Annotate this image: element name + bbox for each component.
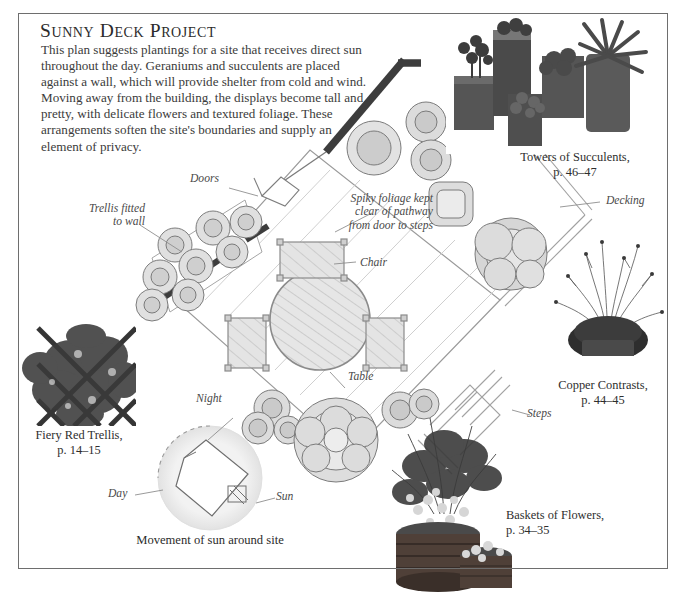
annotation-sun: Sun [276,490,293,503]
annotation-steps: Steps [527,407,551,420]
annotation-night: Night [196,392,222,405]
caption-title: Towers of Succulents, [495,150,655,165]
book-page: Sunny Deck Project This plan suggests pl… [0,0,685,601]
page-title: Sunny Deck Project [40,20,400,42]
annotation-trellis-fitted-to-wall: Trellis fitted to wall [45,202,145,229]
caption-pages: p. 34–35 [506,523,666,538]
sun-diagram-caption: Movement of sun around site [110,533,310,548]
annotation-spiky-foliage: Spiky foliage kept clear of pathway from… [325,192,433,232]
caption-baskets-of-flowers: Baskets of Flowers, p. 34–35 [506,508,666,537]
intro-paragraph: This plan suggests plantings for a site … [41,42,371,155]
caption-title: Copper Contrasts, [528,378,678,393]
annotation-doors: Doors [190,172,219,185]
annotation-chair: Chair [360,256,387,269]
annotation-table: Table [348,370,373,383]
caption-towers-of-succulents: Towers of Succulents, p. 46–47 [495,150,655,179]
caption-title: Fiery Red Trellis, [14,428,144,443]
caption-pages: p. 46–47 [495,165,655,180]
caption-copper-contrasts: Copper Contrasts, p. 44–45 [528,378,678,407]
annotation-decking: Decking [606,194,645,207]
caption-pages: p. 44–45 [528,393,678,408]
annotation-day: Day [108,487,127,500]
caption-pages: p. 14–15 [14,443,144,458]
caption-fiery-red-trellis: Fiery Red Trellis, p. 14–15 [14,428,144,457]
caption-title: Baskets of Flowers, [506,508,666,523]
